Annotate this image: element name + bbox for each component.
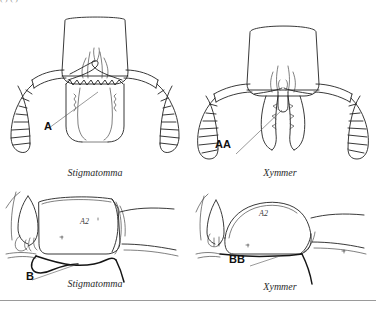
caption-lateral-stigmatomma: Stigmatomma [30, 279, 160, 289]
segment-label-a2-left: A2 [80, 218, 89, 226]
caption-lateral-xymmer: Xymmer [215, 282, 345, 292]
bottom-divider [0, 300, 376, 301]
cut-off-header-text: ( ) ( ) [0, 0, 376, 9]
segment-label-a2-right: A2 [259, 210, 268, 218]
label-a: A [44, 121, 52, 132]
cut-off-header-text-line: ( ) ( ) [0, 0, 376, 3]
figure-plate: ( ) ( ) [0, 0, 376, 309]
caption-head-stigmatomma: Stigmatomma [30, 168, 160, 178]
panel-lateral-xymmer [196, 192, 371, 292]
label-aa: AA [215, 139, 231, 150]
caption-head-xymmer: Xymmer [215, 168, 345, 178]
label-bb: BB [229, 254, 245, 265]
panel-head-stigmatomma [2, 14, 188, 164]
drawing-head-stigmatomma [2, 14, 188, 164]
drawing-lateral-xymmer [196, 192, 371, 292]
